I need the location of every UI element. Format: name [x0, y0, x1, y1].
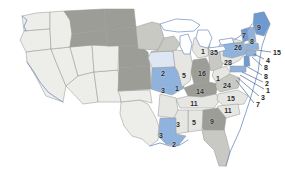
leader-line-md: [240, 75, 264, 89]
label-ia: 2: [161, 70, 165, 77]
state-florida[interactable]: [202, 130, 230, 166]
callout-md: 1: [266, 87, 270, 94]
label-nc: 15: [227, 95, 235, 102]
label-mo: 1: [175, 85, 179, 92]
label-la: 2: [172, 141, 176, 148]
state-colorado[interactable]: [92, 43, 119, 72]
label-mi: 1: [201, 48, 205, 55]
leader-line-ri: [254, 54, 264, 59]
state-new-mexico[interactable]: [94, 70, 121, 102]
state-south-dakota[interactable]: [106, 27, 138, 46]
callout-nj: 8: [264, 73, 268, 80]
label-nh: 8: [250, 38, 254, 45]
label-me: 9: [257, 24, 261, 31]
state-oregon[interactable]: [20, 29, 51, 52]
label-tn: 11: [190, 100, 197, 107]
label-pa: 26: [234, 44, 242, 51]
callout-de: 2: [265, 80, 269, 87]
label-ne: 3: [161, 87, 165, 94]
label-va: 24: [223, 82, 231, 89]
label-oh: 35: [210, 49, 218, 56]
callout-dc: 3: [261, 94, 265, 101]
us-choropleth-map: 25163114111352628124151195332789 1548821…: [0, 0, 285, 183]
callout-va2: 7: [256, 101, 260, 108]
state-arkansas[interactable]: [158, 94, 178, 118]
label-ms: 3: [176, 121, 180, 128]
leader-line-ct: [252, 57, 262, 66]
callout-ri: 4: [266, 57, 270, 64]
map-canvas: [0, 0, 285, 183]
state-texas[interactable]: [120, 100, 160, 146]
callout-ma: 15: [273, 49, 281, 56]
label-ga: 9: [210, 118, 214, 125]
state-new-jersey[interactable]: [244, 56, 250, 66]
label-tx: 3: [159, 132, 163, 139]
state-iowa[interactable]: [148, 51, 175, 68]
label-al: 5: [192, 119, 196, 126]
leader-line-nj: [246, 66, 262, 75]
label-wv: 1: [216, 75, 220, 82]
state-maine[interactable]: [253, 12, 270, 36]
label-sc: 11: [224, 107, 231, 114]
lake-superior-icon: [160, 19, 200, 32]
state-north-dakota[interactable]: [104, 9, 136, 30]
state-maryland[interactable]: [230, 66, 246, 72]
state-kansas[interactable]: [118, 66, 151, 91]
label-vt: 7: [242, 32, 246, 39]
label-ky: 14: [196, 88, 204, 95]
state-connecticut[interactable]: [246, 50, 256, 56]
callout-ct: 8: [264, 64, 268, 71]
label-in: 16: [198, 70, 206, 77]
label-il: 5: [182, 72, 186, 79]
label-ny: 28: [224, 59, 232, 66]
leader-line-ma: [256, 50, 271, 52]
